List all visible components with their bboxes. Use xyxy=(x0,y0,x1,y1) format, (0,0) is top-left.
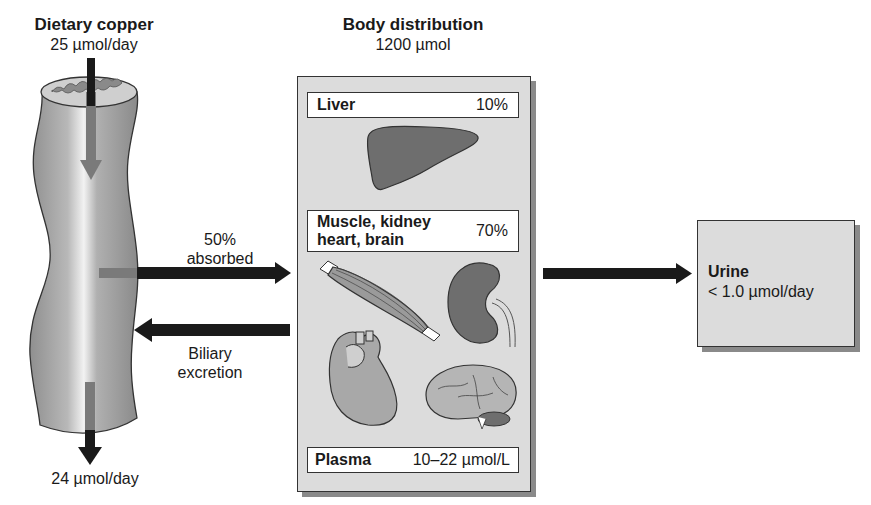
muscle-kidney-heart-brain-tag: Muscle, kidney heart, brain 70% xyxy=(307,210,519,252)
body-distribution-title: Body distribution xyxy=(313,15,513,35)
heart-icon xyxy=(329,331,396,425)
absorbed-percent: 50% xyxy=(170,230,270,249)
urine-box: Urine < 1.0 µmol/day xyxy=(697,220,855,347)
urine-title: Urine xyxy=(708,263,749,281)
biliary-text-2: excretion xyxy=(160,363,260,382)
liver-label: Liver xyxy=(317,96,355,114)
muscle-icon xyxy=(320,261,440,341)
absorbed-text: absorbed xyxy=(170,249,270,268)
dietary-input-arrow xyxy=(87,58,95,106)
plasma-tag: Plasma 10–22 µmol/L xyxy=(307,447,519,473)
plasma-concentration: 10–22 µmol/L xyxy=(413,451,510,469)
organ-icons xyxy=(298,77,530,491)
biliary-label: Biliary excretion xyxy=(160,344,260,382)
dietary-copper-title: Dietary copper xyxy=(24,15,164,35)
intestine-icon xyxy=(30,77,138,433)
plasma-label: Plasma xyxy=(315,451,371,469)
biliary-excretion-arrow xyxy=(134,318,290,342)
muscle-kidney-heart-brain-label: Muscle, kidney heart, brain xyxy=(317,213,431,249)
kidney-icon xyxy=(448,263,515,347)
dietary-copper-value: 25 µmol/day xyxy=(24,36,164,54)
brain-icon xyxy=(426,365,516,429)
biliary-text-1: Biliary xyxy=(160,344,260,363)
liver-percent: 10% xyxy=(476,96,508,114)
body-distribution-panel: Liver 10% Muscle, kidney heart, brain 70… xyxy=(297,76,531,492)
liver-tag: Liver 10% xyxy=(307,92,519,118)
liver-icon xyxy=(298,77,530,491)
absorbed-label: 50% absorbed xyxy=(170,230,270,268)
body-distribution-total: 1200 µmol xyxy=(313,36,513,54)
muscle-kidney-text: Muscle, kidney xyxy=(317,213,431,231)
urine-arrow xyxy=(543,263,692,284)
fecal-output-value: 24 µmol/day xyxy=(25,470,165,488)
muscle-kidney-heart-brain-percent: 70% xyxy=(476,222,508,240)
urine-value: < 1.0 µmol/day xyxy=(708,283,814,301)
heart-brain-text: heart, brain xyxy=(317,231,431,249)
